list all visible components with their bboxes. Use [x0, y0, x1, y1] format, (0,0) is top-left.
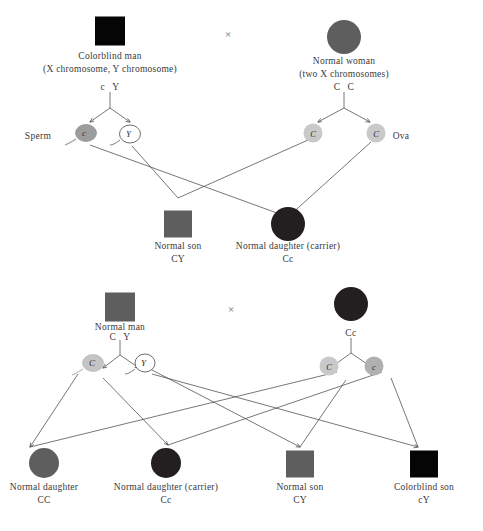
panel1-father-label-line2: (X chromosome, Y chromosome): [43, 63, 177, 76]
panel1-father-symbol: [95, 17, 125, 46]
panel1-sperm-label: Sperm: [25, 131, 51, 141]
panel1-mother-label: Normal woman (two X chromosomes): [299, 55, 389, 80]
panel2-offspring-4-label: Colorblind son cY: [394, 481, 454, 506]
panel2-offspring-2-genotype: Cc: [114, 494, 218, 507]
panel1-mother-allele-1: C: [334, 82, 341, 92]
panel2-offspring-3-genotype: CY: [276, 494, 323, 507]
panel2-offspring-1-label: Normal daughter CC: [10, 481, 78, 506]
panel2-ovum-1: C: [320, 357, 339, 376]
panel2-offspring-1-label-line1: Normal daughter: [10, 482, 78, 492]
panel1-offspring-2-genotype: Cc: [236, 253, 340, 266]
panel2-offspring-4-genotype: cY: [394, 494, 454, 507]
panel2-cross-symbol: ×: [228, 303, 234, 315]
panel2-ovum-2: c: [365, 357, 384, 376]
panel1-mother-genotype: C|C: [334, 82, 355, 92]
panel1-offspring-1-symbol: [164, 211, 192, 238]
panel2-offspring-1-symbol: [29, 448, 59, 478]
panel2-sperm-y: Y: [123, 352, 163, 380]
panel1-offspring-1-label-line1: Normal son: [154, 241, 201, 251]
panel1-mother-allele-2: C: [348, 82, 355, 92]
panel2-offspring-2-symbol: [151, 448, 181, 478]
panel2-offspring-4-label-line1: Colorblind son: [394, 482, 454, 492]
panel1-father-meiosis-arrows: [90, 92, 130, 122]
panel1-mother-symbol: [327, 20, 361, 54]
panel1-ovum-2-allele: C: [373, 128, 379, 138]
panel1-offspring-2-symbol: [271, 207, 305, 241]
panel1-mother-label-line1: Normal woman: [313, 56, 375, 66]
panel1-ovum-2: C: [367, 124, 386, 143]
panel1-sperm-c: c: [64, 122, 104, 150]
panel2-father-genotype: C|Y: [109, 332, 130, 342]
panel2-father-allele-1: C: [109, 332, 116, 342]
panel2-mother-genotype: Cc: [345, 328, 356, 338]
panel1-mother-label-line2: (two X chromosomes): [299, 68, 389, 81]
panel1-ovum-1: C: [304, 124, 323, 143]
panel2-offspring-2-label: Normal daughter (carrier) Cc: [114, 481, 218, 506]
panel2-father-symbol: [105, 293, 135, 322]
panel1-fertilization-paths: [90, 140, 371, 217]
panel1-offspring-1-label: Normal son CY: [154, 240, 201, 265]
panel2-father-label-line1: Normal man: [95, 322, 145, 332]
genetics-diagram: Colorblind man (X chromosome, Y chromoso…: [0, 0, 483, 531]
panel1-father-allele-2: Y: [112, 82, 119, 92]
panel2-father-allele-2: Y: [123, 332, 130, 342]
panel1-father-label-line1: Colorblind man: [78, 51, 141, 61]
panel2-sperm-c: C: [71, 352, 111, 380]
panel1-ova-label: Ova: [393, 131, 410, 141]
panel2-ovum-2-allele: c: [372, 361, 376, 371]
panel1-father-label: Colorblind man (X chromosome, Y chromoso…: [43, 50, 177, 75]
panel1-offspring-2-label: Normal daughter (carrier) Cc: [236, 240, 340, 265]
panel1-sperm-y: Y: [108, 123, 148, 151]
panel1-cross-symbol: ×: [225, 28, 231, 40]
panel1-ovum-1-allele: C: [310, 128, 316, 138]
panel2-offspring-4-symbol: [410, 451, 438, 478]
panel2-mother-symbol: [334, 287, 368, 321]
panel2-offspring-2-label-line1: Normal daughter (carrier): [114, 482, 218, 492]
panel2-ovum-1-allele: C: [326, 361, 332, 371]
panel1-offspring-1-genotype: CY: [154, 253, 201, 266]
panel2-offspring-3-symbol: [286, 451, 314, 478]
panel2-fertilization-paths: [30, 370, 418, 447]
panel1-mother-meiosis-arrows: [318, 92, 370, 122]
panel2-offspring-1-genotype: CC: [10, 494, 78, 507]
panel1-offspring-2-label-line1: Normal daughter (carrier): [236, 241, 340, 251]
panel1-father-genotype: c|Y: [101, 82, 120, 92]
panel2-offspring-3-label-line1: Normal son: [276, 482, 323, 492]
panel2-offspring-3-label: Normal son CY: [276, 481, 323, 506]
